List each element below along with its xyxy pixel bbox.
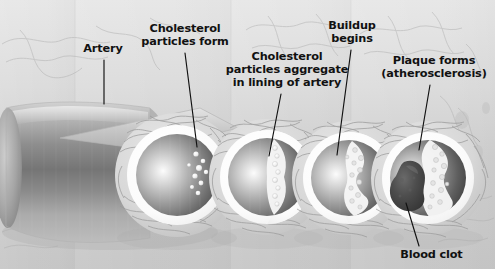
leader-line-cholesterol-aggregate xyxy=(269,94,281,156)
leader-line-plaque-forms xyxy=(419,85,430,150)
leader-line-blood-clot xyxy=(406,203,419,246)
label-cholesterol-particles-aggregate: Cholesterol particles aggregate in linin… xyxy=(224,50,350,90)
label-plaque-forms: Plaque forms (atherosclerosis) xyxy=(378,54,490,80)
leader-line-cholesterol-particles-form xyxy=(185,53,197,147)
label-cholesterol-particles-form: Cholesterol particles form xyxy=(138,22,232,48)
label-buildup-begins: Buildup begins xyxy=(322,19,382,45)
leader-lines-layer xyxy=(0,0,495,269)
atherosclerosis-illustration: Artery Cholesterol particles form Choles… xyxy=(0,0,495,269)
label-artery: Artery xyxy=(73,42,133,55)
label-blood-clot: Blood clot xyxy=(394,248,469,261)
